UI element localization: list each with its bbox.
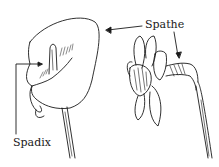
diagram-canvas: Spathe Spadix xyxy=(0,0,219,167)
spadix-leader xyxy=(16,62,42,134)
spadix-label: Spadix xyxy=(13,137,51,148)
daffodil-drawing xyxy=(127,36,212,158)
spathe-label: Spathe xyxy=(145,19,184,30)
